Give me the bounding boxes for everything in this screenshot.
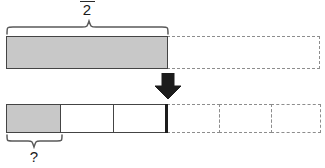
top-bar-dashed-cell xyxy=(167,36,320,69)
bottom-bar-empty-cell-2 xyxy=(113,104,168,133)
bottom-bar-dashed-cell-1 xyxy=(167,104,220,133)
bottom-bar-half-divider xyxy=(165,104,168,133)
fraction-denominator: 2 xyxy=(70,3,104,17)
bottom-bar-shaded-cell xyxy=(6,104,61,133)
bottom-bar-dashed-cell-2 xyxy=(219,104,272,133)
bottom-bar-empty-cell-1 xyxy=(60,104,114,133)
bottom-bar-dashed-cell-3 xyxy=(271,104,321,133)
unknown-question-mark-label: ? xyxy=(26,149,42,164)
down-arrow-icon xyxy=(154,73,182,100)
top-bar-shaded-cell xyxy=(6,36,168,69)
top-brace xyxy=(4,19,172,35)
fraction-bar-model-diagram: 1 2 ? xyxy=(0,0,325,168)
fraction-label: 1 2 xyxy=(70,0,104,17)
